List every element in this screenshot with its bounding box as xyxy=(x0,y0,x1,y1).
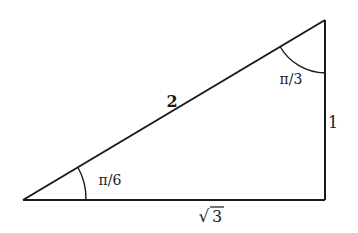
hypotenuse-label: 2 xyxy=(166,92,177,111)
base-label: √ 3 xyxy=(199,206,224,226)
angle-arc-pi-3 xyxy=(280,47,325,74)
left-angle-label: π/6 xyxy=(99,172,122,188)
radicand: 3 xyxy=(212,207,222,226)
top-angle-label: π/3 xyxy=(280,71,303,87)
vertical-side-label: 1 xyxy=(328,113,338,132)
triangle-diagram: 2 π/3 1 π/6 √ 3 xyxy=(0,0,358,233)
angle-arc-pi-6 xyxy=(78,168,86,201)
radical-sign: √ xyxy=(199,206,210,226)
